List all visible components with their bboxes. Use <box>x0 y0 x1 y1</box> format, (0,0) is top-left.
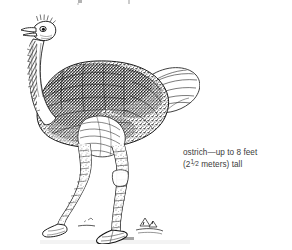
beak <box>21 28 36 32</box>
pupil <box>42 28 45 31</box>
caption-line-2-suffix: meters) tall <box>199 160 242 169</box>
lower-beak <box>23 33 37 36</box>
right-leg <box>97 144 129 244</box>
head <box>21 15 56 41</box>
page-canvas: ostrich—up to 8 feet (21⁄2 meters) tall <box>0 0 292 250</box>
left-leg <box>43 144 92 237</box>
caption-fraction: 1⁄2 <box>190 159 199 168</box>
caption-line-2: (21⁄2 meters) tall <box>183 159 287 171</box>
ostrich-illustration <box>0 4 200 244</box>
caption-line-2-prefix: (2 <box>183 160 190 169</box>
ostrich-caption: ostrich—up to 8 feet (21⁄2 meters) tall <box>183 148 287 170</box>
caption-line-1: ostrich—up to 8 feet <box>183 148 287 159</box>
